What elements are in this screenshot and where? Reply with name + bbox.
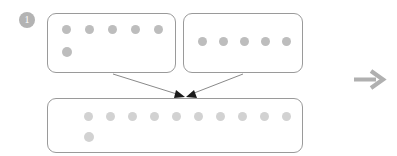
dot <box>150 112 159 121</box>
source-box-a-row-2 <box>62 47 72 57</box>
dot <box>85 25 94 34</box>
dot <box>84 112 93 121</box>
dot <box>154 25 163 34</box>
source-box-b-row-1 <box>198 37 291 46</box>
dot <box>106 112 115 121</box>
dot <box>172 112 181 121</box>
dot <box>261 37 270 46</box>
step-badge: 1 <box>19 12 35 28</box>
source-box-b <box>183 13 303 73</box>
dot <box>198 37 207 46</box>
arrow-right-icon <box>352 67 390 93</box>
result-box-row-1 <box>84 112 291 121</box>
dot <box>128 112 137 121</box>
dot <box>131 25 140 34</box>
dot <box>108 25 117 34</box>
dot <box>62 25 71 34</box>
diagram-canvas: 1 <box>0 0 397 156</box>
dot <box>194 112 203 121</box>
connector-a-arrowhead <box>174 90 185 98</box>
dot <box>282 37 291 46</box>
source-box-a <box>47 13 176 73</box>
result-box-row-2 <box>84 132 94 142</box>
dot <box>260 112 269 121</box>
connector-b-arrowhead <box>186 90 197 98</box>
dot <box>216 112 225 121</box>
dot <box>62 47 72 57</box>
connector-b-to-result <box>189 74 243 95</box>
dot <box>238 112 247 121</box>
dot <box>282 112 291 121</box>
connector-a-to-result <box>113 74 180 95</box>
dot <box>84 132 94 142</box>
dot <box>219 37 228 46</box>
source-box-a-row-1 <box>62 25 163 34</box>
result-box <box>47 98 303 153</box>
dot <box>240 37 249 46</box>
